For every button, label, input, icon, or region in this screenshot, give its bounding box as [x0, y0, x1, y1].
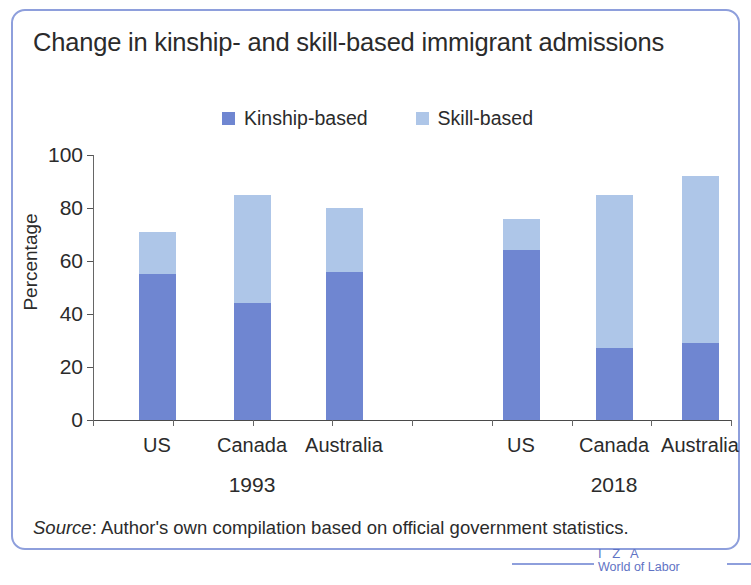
- y-tick-mark: [87, 155, 93, 156]
- source-separator: :: [92, 517, 101, 538]
- y-tick-label: 60: [31, 249, 83, 273]
- source-text: Author's own compilation based on offici…: [101, 517, 629, 538]
- x-tick-mark: [731, 420, 732, 426]
- y-tick-label: 20: [31, 355, 83, 379]
- x-tick-mark: [572, 420, 573, 426]
- x-tick-mark: [651, 420, 652, 426]
- brand-rule-right: [727, 563, 751, 565]
- x-category-label: Australia: [305, 434, 383, 457]
- iza-world-of-labor-logo: I Z A World of Labor: [598, 547, 680, 575]
- iza-logo-line2: World of Labor: [598, 561, 680, 575]
- iza-logo-line1: I Z A: [598, 547, 680, 561]
- bar-stack: [596, 195, 633, 420]
- bar-segment-skill: [326, 208, 363, 272]
- x-tick-mark: [93, 420, 94, 426]
- bar-segment-skill: [503, 219, 540, 251]
- x-tick-mark: [412, 420, 413, 426]
- y-tick-label: 40: [31, 302, 83, 326]
- x-tick-mark: [492, 420, 493, 426]
- x-category-label: US: [507, 434, 535, 457]
- y-tick-label: 0: [31, 408, 83, 432]
- figure-panel: Change in kinship- and skill-based immig…: [11, 9, 740, 550]
- bar-segment-kinship: [326, 272, 363, 420]
- bar-stack: [682, 176, 719, 420]
- bar-segment-skill: [234, 195, 271, 304]
- y-tick-mark: [87, 314, 93, 315]
- bar-segment-skill: [596, 195, 633, 349]
- bar-segment-kinship: [139, 274, 176, 420]
- x-category-label: Canada: [579, 434, 649, 457]
- y-tick-mark: [87, 367, 93, 368]
- bar-segment-kinship: [596, 348, 633, 420]
- x-group-label: 1993: [229, 473, 276, 497]
- x-tick-mark: [173, 420, 174, 426]
- bar-segment-kinship: [234, 303, 271, 420]
- bar-segment-skill: [682, 176, 719, 343]
- bar-stack: [234, 195, 271, 420]
- x-group-label: 2018: [591, 473, 638, 497]
- x-category-label: Canada: [217, 434, 287, 457]
- bar-stack: [139, 232, 176, 420]
- bar-stack: [503, 219, 540, 420]
- x-category-label: Australia: [661, 434, 739, 457]
- bar-stack: [326, 208, 363, 420]
- x-category-label: US: [143, 434, 171, 457]
- y-axis-line: [93, 155, 94, 420]
- bar-segment-kinship: [503, 250, 540, 420]
- x-tick-mark: [332, 420, 333, 426]
- y-tick-label: 80: [31, 196, 83, 220]
- source-note: Source: Author's own compilation based o…: [33, 517, 629, 539]
- source-label: Source: [33, 517, 92, 538]
- x-tick-mark: [253, 420, 254, 426]
- y-tick-mark: [87, 261, 93, 262]
- bar-segment-kinship: [682, 343, 719, 420]
- bar-segment-skill: [139, 232, 176, 274]
- y-tick-mark: [87, 208, 93, 209]
- brand-rule-left: [512, 563, 594, 565]
- y-tick-label: 100: [31, 143, 83, 167]
- plot-area: Percentage 020406080100 USCanadaAustrali…: [13, 11, 742, 552]
